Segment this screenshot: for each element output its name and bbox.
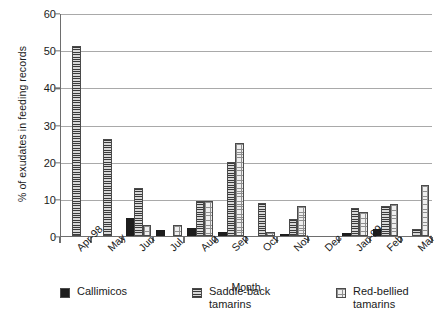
bar-group bbox=[370, 14, 401, 236]
x-axis-label-cell: Sep bbox=[215, 243, 246, 281]
bar bbox=[258, 203, 267, 236]
x-axis-label-cell: Feb bbox=[370, 243, 401, 281]
legend-swatch-icon bbox=[336, 288, 346, 298]
x-axis-label-cell: Oct bbox=[246, 243, 277, 281]
bar-group bbox=[277, 14, 308, 236]
bar bbox=[173, 225, 182, 236]
bar-group bbox=[216, 14, 247, 236]
y-axis-tick-label: 10 bbox=[0, 194, 56, 206]
bar bbox=[342, 233, 351, 236]
x-axis-labels: Apr-98MayJunJulAugSepOctNovDecJan-99FebM… bbox=[60, 243, 432, 281]
bar-group bbox=[339, 14, 370, 236]
bar bbox=[421, 185, 430, 236]
bar bbox=[390, 204, 399, 236]
x-axis-label-cell: Mar bbox=[401, 243, 432, 281]
bar-group bbox=[154, 14, 185, 236]
x-axis-label-cell: May bbox=[91, 243, 122, 281]
legend-item: Callimicos bbox=[60, 285, 192, 325]
bar-group bbox=[123, 14, 154, 236]
bar-group bbox=[308, 14, 339, 236]
x-axis-label-cell: Jun bbox=[122, 243, 153, 281]
legend-swatch-icon bbox=[60, 288, 70, 298]
x-axis-label-cell: Apr-98 bbox=[60, 243, 91, 281]
bar bbox=[235, 143, 244, 236]
bar bbox=[227, 162, 236, 236]
bar bbox=[351, 208, 360, 236]
y-axis-tick-label: 50 bbox=[0, 45, 56, 57]
y-axis-tick-label: 30 bbox=[0, 120, 56, 132]
y-axis-tick-label: 0 bbox=[0, 231, 56, 243]
y-axis-tick-label: 60 bbox=[0, 8, 56, 20]
x-axis-label-cell: Dec bbox=[308, 243, 339, 281]
y-axis-tick-label: 40 bbox=[0, 82, 56, 94]
bar-group bbox=[92, 14, 123, 236]
bar bbox=[289, 219, 298, 236]
legend-item: Saddle-backtamarins bbox=[192, 285, 336, 325]
bar bbox=[218, 232, 227, 236]
x-axis-label-cell: Jul bbox=[153, 243, 184, 281]
y-axis-tick-label: 20 bbox=[0, 157, 56, 169]
bar bbox=[156, 230, 165, 236]
bar bbox=[72, 46, 81, 236]
legend-item: Red-belliedtamarins bbox=[336, 285, 444, 325]
bar bbox=[187, 228, 196, 236]
bar-group bbox=[401, 14, 432, 236]
legend-label: Red-belliedtamarins bbox=[353, 285, 409, 311]
bar bbox=[412, 229, 421, 236]
bar bbox=[126, 218, 135, 236]
plot-area bbox=[60, 14, 432, 237]
legend-label: Saddle-backtamarins bbox=[209, 285, 270, 311]
x-axis-label-cell: Aug bbox=[184, 243, 215, 281]
bar-group bbox=[185, 14, 216, 236]
legend: CallimicosSaddle-backtamarinsRed-bellied… bbox=[60, 285, 444, 325]
legend-label: Callimicos bbox=[77, 285, 127, 298]
legend-swatch-icon bbox=[192, 288, 202, 298]
exudate-feeding-bar-chart: % of exudates in feeding records 0102030… bbox=[0, 0, 444, 326]
bar-groups bbox=[61, 14, 432, 236]
bar bbox=[204, 201, 213, 236]
bar bbox=[134, 188, 143, 236]
bar-group bbox=[61, 14, 92, 236]
bar bbox=[196, 201, 205, 236]
bar bbox=[103, 139, 112, 236]
x-axis-label-cell: Nov bbox=[277, 243, 308, 281]
bar-group bbox=[247, 14, 278, 236]
x-axis-label-cell: Jan-99 bbox=[339, 243, 370, 281]
bar bbox=[280, 234, 289, 236]
